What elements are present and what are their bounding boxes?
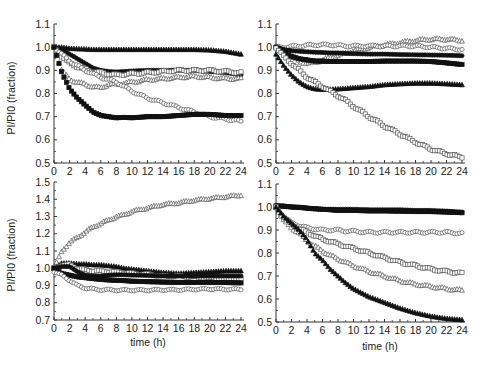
data-point-marker xyxy=(239,281,243,285)
data-point-marker xyxy=(54,53,58,57)
x-tick-label: 18 xyxy=(188,165,200,177)
y-tick-label: 0.9 xyxy=(257,224,272,236)
y-tick-label: 0.9 xyxy=(35,64,50,76)
chart-panel-top-right: 0.50.60.70.80.91.01.10246810121416182022… xyxy=(257,18,468,177)
data-point-marker xyxy=(62,75,66,79)
x-tick-label: 4 xyxy=(304,324,310,336)
x-tick-label: 22 xyxy=(441,324,453,336)
x-tick-label: 0 xyxy=(51,322,57,334)
x-tick-label: 18 xyxy=(410,324,422,336)
x-tick-label: 6 xyxy=(320,324,326,336)
data-point-marker xyxy=(52,45,56,49)
y-tick-label: 0.7 xyxy=(35,314,50,326)
x-tick-label: 16 xyxy=(173,322,185,334)
x-tick-label: 2 xyxy=(289,165,295,177)
data-point-marker xyxy=(239,70,243,74)
series-filled-triangle xyxy=(274,205,465,322)
y-tick-label: 0.8 xyxy=(257,247,272,259)
x-tick-label: 20 xyxy=(204,165,216,177)
x-tick-label: 16 xyxy=(394,165,406,177)
y-tick-label: 0.5 xyxy=(257,157,272,169)
y-axis-title-top: PI/PI0 (fraction) xyxy=(5,62,17,135)
x-tick-label: 20 xyxy=(204,322,216,334)
y-tick-label: 1.1 xyxy=(35,245,50,257)
y-tick-label: 0.6 xyxy=(257,293,272,305)
x-tick-label: 24 xyxy=(235,165,247,177)
x-tick-label: 2 xyxy=(67,322,73,334)
x-tick-label: 10 xyxy=(348,165,360,177)
x-tick-label: 8 xyxy=(335,165,341,177)
x-tick-label: 6 xyxy=(98,322,104,334)
y-tick-label: 0.8 xyxy=(257,87,272,99)
x-tick-label: 24 xyxy=(456,165,468,177)
y-tick-label: 0.5 xyxy=(35,157,50,169)
y-tick-label: 1.0 xyxy=(35,41,50,53)
x-tick-label: 14 xyxy=(379,324,391,336)
data-point-marker xyxy=(460,54,464,58)
x-tick-label: 4 xyxy=(304,165,310,177)
data-point-marker xyxy=(57,254,62,259)
chart-panel-bottom-right: 0.50.60.70.80.91.01.10246810121416182022… xyxy=(257,178,468,336)
data-point-marker xyxy=(239,113,243,117)
chart-panel-bottom-left: 0.70.80.91.01.11.21.31.41.50246810121416… xyxy=(35,176,247,334)
data-point-marker xyxy=(239,119,243,123)
x-tick-label: 10 xyxy=(126,165,138,177)
data-point-marker xyxy=(239,288,243,292)
x-tick-label: 20 xyxy=(425,324,437,336)
x-tick-label: 2 xyxy=(289,324,295,336)
x-tick-label: 22 xyxy=(220,165,232,177)
x-tick-label: 24 xyxy=(235,322,247,334)
x-tick-label: 8 xyxy=(113,322,119,334)
x-tick-label: 8 xyxy=(335,324,341,336)
x-tick-label: 8 xyxy=(113,165,119,177)
x-tick-label: 12 xyxy=(363,165,375,177)
y-tick-label: 0.6 xyxy=(35,133,50,145)
x-tick-label: 18 xyxy=(410,165,422,177)
x-tick-label: 0 xyxy=(51,165,57,177)
x-tick-label: 10 xyxy=(126,322,138,334)
x-tick-label: 18 xyxy=(188,322,200,334)
y-axis-title-bottom: PI/PI0 (fraction) xyxy=(5,219,17,292)
data-point-marker xyxy=(460,270,464,274)
x-tick-label: 14 xyxy=(157,165,169,177)
y-tick-label: 1.2 xyxy=(35,227,50,239)
series-open-triangle xyxy=(274,205,465,292)
series-open-triangle xyxy=(52,193,244,271)
y-tick-label: 0.6 xyxy=(257,133,272,145)
series-open-square xyxy=(274,205,464,275)
chart-panel-top-left: 0.50.60.70.80.91.01.10246810121416182022… xyxy=(35,18,247,177)
y-tick-label: 0.5 xyxy=(257,316,272,328)
x-tick-label: 2 xyxy=(67,165,73,177)
data-point-marker xyxy=(239,274,243,278)
y-tick-label: 1.1 xyxy=(257,178,272,190)
y-tick-label: 1.1 xyxy=(257,18,272,30)
x-tick-label: 22 xyxy=(441,165,453,177)
data-point-marker xyxy=(59,70,63,74)
series-filled-square xyxy=(274,204,464,215)
x-tick-label: 12 xyxy=(363,324,375,336)
y-tick-label: 0.8 xyxy=(35,296,50,308)
data-point-marker xyxy=(57,61,61,65)
data-point-marker xyxy=(311,248,316,253)
x-tick-label: 0 xyxy=(273,165,279,177)
data-point-marker xyxy=(460,62,464,66)
x-tick-label: 24 xyxy=(456,324,468,336)
figure-canvas: 0.50.60.70.80.91.01.10246810121416182022… xyxy=(0,0,484,369)
y-tick-label: 1.5 xyxy=(35,176,50,188)
x-tick-label: 16 xyxy=(173,165,185,177)
y-tick-label: 0.7 xyxy=(257,110,272,122)
y-tick-label: 1.4 xyxy=(35,193,50,205)
x-axis-title-right: time (h) xyxy=(362,340,398,352)
x-tick-label: 4 xyxy=(82,165,88,177)
y-tick-label: 1.0 xyxy=(257,41,272,53)
x-tick-label: 0 xyxy=(273,324,279,336)
x-tick-label: 6 xyxy=(98,165,104,177)
y-tick-label: 0.7 xyxy=(257,270,272,282)
x-tick-label: 12 xyxy=(142,165,154,177)
data-point-marker xyxy=(460,156,464,160)
y-tick-label: 1.1 xyxy=(35,18,50,30)
x-tick-label: 20 xyxy=(425,165,437,177)
y-tick-label: 0.8 xyxy=(35,87,50,99)
x-tick-label: 12 xyxy=(142,322,154,334)
x-tick-label: 16 xyxy=(394,324,406,336)
